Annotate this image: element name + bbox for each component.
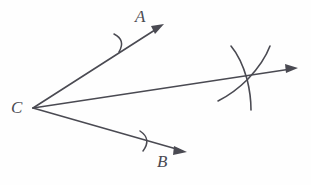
angle-bisector-figure: A B C	[0, 0, 311, 185]
point-label-a: A	[135, 8, 145, 25]
point-label-b: B	[157, 153, 167, 170]
ray-ca-tick-arc	[114, 34, 122, 52]
ray-ca-arrowhead	[151, 24, 164, 34]
construction-arcs-group	[218, 46, 270, 110]
ray-ca-group	[33, 24, 164, 108]
ray-bisector-group	[33, 64, 298, 108]
ray-cb-arrowhead	[173, 146, 187, 155]
point-label-c: C	[11, 99, 22, 116]
ray-ca-line	[33, 28, 158, 108]
ray-cb-line	[33, 108, 180, 150]
ray-bisector-arrowhead	[285, 64, 298, 73]
ray-cb-group	[33, 108, 187, 155]
geometry-canvas	[0, 0, 311, 185]
